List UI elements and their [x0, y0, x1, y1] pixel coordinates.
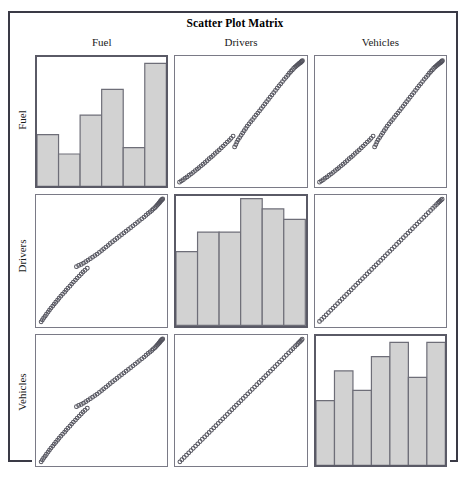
histogram-vehicles [316, 336, 445, 465]
histogram-bar [316, 400, 334, 465]
histogram-bar [176, 252, 198, 326]
scatter-drivers-fuel [36, 195, 167, 326]
panel-fuel-drivers[interactable] [171, 52, 310, 191]
scatter-vehicles-drivers [175, 335, 306, 466]
row-label-vehicles-text: Vehicles [16, 373, 28, 410]
panel-vehicles-vehicles[interactable] [311, 331, 450, 470]
column-header-row: Fuel Drivers Vehicles [32, 36, 450, 52]
histogram-bar [371, 356, 389, 465]
panel-drivers-vehicles[interactable] [311, 191, 450, 330]
scatter-fuel-vehicles [315, 56, 446, 187]
panel-drivers-drivers[interactable] [171, 191, 310, 330]
scatter-vehicles-fuel [36, 335, 167, 466]
histogram-bar [102, 89, 124, 186]
figure-frame: Scatter Plot Matrix Fuel Drivers Vehicle… [8, 11, 458, 462]
scatter-plot-matrix-page: Scatter Plot Matrix Fuel Drivers Vehicle… [0, 0, 469, 477]
row-label-vehicles: Vehicles [12, 324, 32, 460]
panel-inner-vehicles-vehicles [314, 334, 447, 467]
panel-vehicles-fuel[interactable] [32, 331, 171, 470]
histogram-bar [284, 220, 306, 326]
histogram-fuel [37, 57, 166, 186]
histogram-bar [198, 233, 220, 326]
row-label-drivers-text: Drivers [16, 240, 28, 273]
panel-inner-vehicles-fuel [35, 334, 168, 467]
histogram-bar [145, 63, 167, 186]
row-label-column: Fuel Drivers Vehicles [12, 52, 32, 460]
column-header-fuel: Fuel [32, 36, 171, 52]
row-label-drivers: Drivers [12, 188, 32, 324]
histogram-bar [408, 377, 426, 465]
panel-fuel-vehicles[interactable] [311, 52, 450, 191]
row-label-fuel: Fuel [12, 52, 32, 188]
histogram-bar [37, 135, 59, 187]
row-label-fuel-text: Fuel [16, 110, 28, 130]
histogram-bar [427, 342, 445, 465]
page-title: Scatter Plot Matrix [10, 17, 460, 29]
histogram-bar [353, 390, 371, 465]
panel-drivers-fuel[interactable] [32, 191, 171, 330]
scatter-fuel-drivers [175, 56, 306, 187]
panel-fuel-fuel[interactable] [32, 52, 171, 191]
histogram-bar [123, 148, 145, 187]
histogram-bar [390, 342, 408, 465]
histogram-bar [219, 233, 241, 326]
histogram-bar [59, 154, 81, 186]
panel-inner-fuel-vehicles [314, 55, 447, 188]
histogram-bar [80, 115, 102, 186]
panel-inner-fuel-drivers [174, 55, 307, 188]
histogram-bar [334, 371, 352, 465]
scatter-drivers-vehicles [315, 195, 446, 326]
histogram-bar [263, 209, 285, 325]
panel-vehicles-drivers[interactable] [171, 331, 310, 470]
histogram-drivers [176, 196, 305, 325]
panel-inner-vehicles-drivers [174, 334, 307, 467]
panel-inner-fuel-fuel [35, 55, 168, 188]
panel-inner-drivers-drivers [174, 194, 307, 327]
panel-inner-drivers-vehicles [314, 194, 447, 327]
column-header-drivers: Drivers [171, 36, 310, 52]
matrix-grid [32, 52, 450, 460]
panel-inner-drivers-fuel [35, 194, 168, 327]
histogram-bar [241, 199, 263, 326]
column-header-vehicles: Vehicles [311, 36, 450, 52]
